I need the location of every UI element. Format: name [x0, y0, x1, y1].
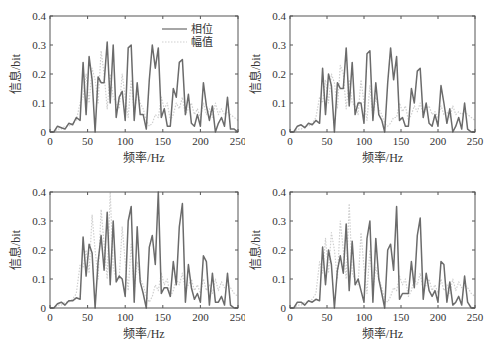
x-tick-label: 150 — [393, 135, 410, 147]
y-tick-label: 0.3 — [272, 215, 286, 227]
chart-top-right: 05010015020025000.10.20.30.4频率/Hz信息/bit — [245, 0, 490, 176]
y-tick-label: 0.4 — [272, 186, 286, 198]
x-tick-label: 100 — [117, 135, 134, 147]
x-tick-label: 250 — [230, 135, 245, 147]
plot-frame — [290, 16, 475, 132]
y-tick-label: 0.3 — [32, 39, 46, 51]
x-tick-label: 150 — [393, 311, 410, 323]
series-phase-line — [50, 192, 238, 308]
series-phase-line — [290, 48, 475, 132]
x-tick-label: 250 — [230, 311, 245, 323]
y-axis-label: 信息/bit — [248, 229, 263, 270]
x-tick-label: 150 — [155, 311, 172, 323]
y-axis-label: 信息/bit — [248, 53, 263, 94]
legend-phase-label: 相位 — [191, 22, 213, 35]
x-tick-label: 100 — [356, 135, 373, 147]
y-tick-label: 0.1 — [272, 273, 286, 285]
chart-svg: 05010015020025000.10.20.30.4频率/Hz信息/bit相… — [0, 0, 245, 176]
y-tick-label: 0 — [281, 126, 287, 138]
series-phase-line — [50, 42, 238, 132]
y-tick-label: 0.1 — [272, 97, 286, 109]
series-phase-line — [290, 207, 475, 309]
x-tick-label: 100 — [356, 311, 373, 323]
x-tick-label: 150 — [155, 135, 172, 147]
x-tick-label: 50 — [82, 135, 94, 147]
plot-frame — [50, 192, 238, 308]
y-tick-label: 0.4 — [32, 10, 46, 22]
y-tick-label: 0 — [41, 126, 47, 138]
x-tick-label: 50 — [82, 311, 94, 323]
x-tick-label: 0 — [47, 311, 53, 323]
y-tick-label: 0.2 — [32, 244, 46, 256]
chart-svg: 05010015020025000.10.20.30.4频率/Hz信息/bit — [245, 0, 490, 176]
x-tick-label: 200 — [192, 135, 209, 147]
legend-amplitude-label: 幅值 — [191, 36, 213, 48]
x-tick-label: 200 — [430, 311, 447, 323]
y-tick-label: 0.1 — [32, 273, 46, 285]
x-tick-label: 250 — [467, 135, 484, 147]
x-tick-label: 100 — [117, 311, 134, 323]
y-tick-label: 0 — [41, 302, 47, 314]
legend: 相位幅值 — [162, 22, 213, 48]
y-tick-label: 0.1 — [32, 97, 46, 109]
x-tick-label: 200 — [192, 311, 209, 323]
y-tick-label: 0.4 — [32, 186, 46, 198]
y-tick-label: 0.3 — [272, 39, 286, 51]
x-tick-label: 250 — [467, 311, 484, 323]
y-tick-label: 0.4 — [272, 10, 286, 22]
y-tick-label: 0.2 — [272, 68, 286, 80]
y-tick-label: 0.3 — [32, 215, 46, 227]
x-tick-label: 0 — [47, 135, 53, 147]
y-tick-label: 0 — [281, 302, 287, 314]
series-amplitude-line — [50, 192, 238, 308]
chart-svg: 05010015020025000.10.20.30.4频率/Hz信息/bit — [0, 176, 245, 352]
chart-svg: 05010015020025000.10.20.30.4频率/Hz信息/bit — [245, 176, 490, 352]
chart-bottom-left: 05010015020025000.10.20.30.4频率/Hz信息/bit — [0, 176, 245, 352]
x-tick-label: 0 — [287, 135, 293, 147]
y-tick-label: 0.2 — [272, 244, 286, 256]
x-axis-label: 频率/Hz — [123, 150, 164, 165]
y-tick-label: 0.2 — [32, 68, 46, 80]
x-axis-label: 频率/Hz — [362, 326, 403, 341]
x-axis-label: 频率/Hz — [362, 150, 403, 165]
x-tick-label: 200 — [430, 135, 447, 147]
x-tick-label: 50 — [322, 135, 334, 147]
x-tick-label: 0 — [287, 311, 293, 323]
x-axis-label: 频率/Hz — [123, 326, 164, 341]
x-tick-label: 50 — [322, 311, 334, 323]
y-axis-label: 信息/bit — [8, 229, 23, 270]
chart-top-left: 05010015020025000.10.20.30.4频率/Hz信息/bit相… — [0, 0, 245, 176]
series-amplitude-line — [290, 204, 475, 308]
y-axis-label: 信息/bit — [8, 53, 23, 94]
chart-bottom-right: 05010015020025000.10.20.30.4频率/Hz信息/bit — [245, 176, 490, 352]
